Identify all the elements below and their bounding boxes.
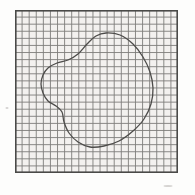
grid-figure bbox=[0, 0, 195, 195]
figure-container: Irregular closed region on a square grid… bbox=[0, 0, 195, 195]
scan-speck-left-icon bbox=[5, 107, 8, 109]
scan-speck-bottom-icon bbox=[164, 185, 173, 187]
